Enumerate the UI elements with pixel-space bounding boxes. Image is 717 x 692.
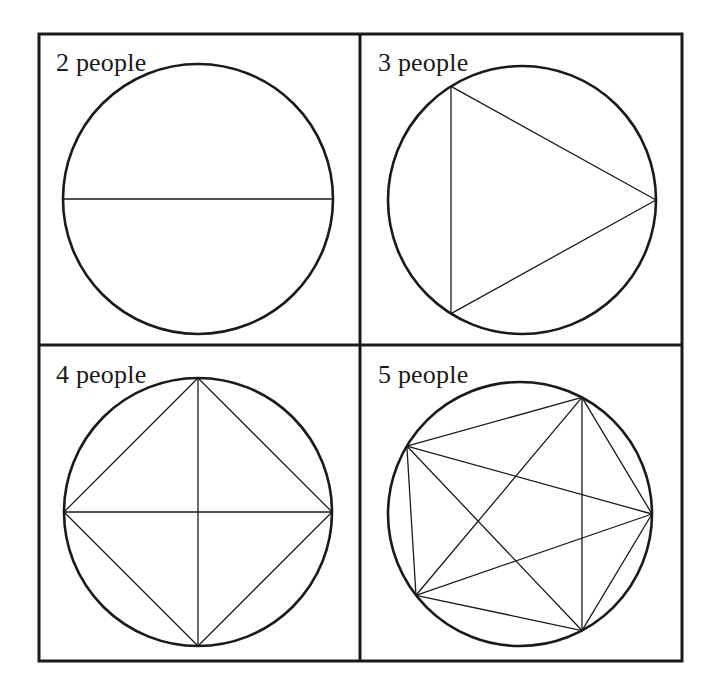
panel-5-people-handshake-chord [416,595,582,630]
panel-4-people-handshake-chord [64,512,198,646]
figure-canvas [0,0,717,692]
panel-3-people-handshake-chord [451,200,656,314]
panel-5-people-handshake-chord [407,446,652,514]
panel-5-people-handshake-chord [582,397,652,514]
panel-label-2-people: 2 people [56,50,146,76]
panel-4-people-handshake-chord [64,378,198,512]
panel-5-people-handshake-chord [416,397,582,595]
panel-2-people [63,64,333,334]
handshake-figure: 2 people 3 people 4 people 5 people [0,0,717,692]
panel-5-people-handshake-chord [582,514,652,631]
panel-3-people-circle [388,66,656,334]
panel-5-people-handshake-chord [407,446,582,631]
panel-label-5-people: 5 people [378,362,468,388]
panel-5-people-handshake-chord [407,446,416,595]
panel-5-people-circle [388,382,652,646]
panel-3-people [388,66,656,334]
panel-5-people-handshake-chord [416,514,652,595]
panel-4-people [64,378,332,646]
panel-label-3-people: 3 people [378,50,468,76]
panel-5-people-handshake-chord [407,397,582,446]
panel-4-people-handshake-chord [198,512,332,646]
panel-5-people [388,382,652,646]
panel-3-people-handshake-chord [451,86,656,200]
panel-4-people-handshake-chord [198,378,332,512]
panel-label-4-people: 4 people [56,362,146,388]
